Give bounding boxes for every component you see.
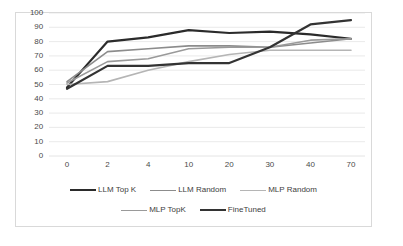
y-axis-tick-label: 100 <box>30 9 43 17</box>
legend-label: LLM Top K <box>98 186 136 194</box>
x-axis-tick-label: 2 <box>105 161 109 169</box>
x-axis-tick-label: 10 <box>184 161 193 169</box>
y-axis-tick-label: 50 <box>34 81 43 89</box>
legend-swatch-line-icon <box>200 209 226 211</box>
legend-swatch-line-icon <box>150 190 176 191</box>
legend-swatch-line-icon <box>240 190 266 191</box>
x-axis-tick-label: 70 <box>347 161 356 169</box>
legend-item-mlp-random[interactable]: MLP Random <box>240 186 317 194</box>
legend-item-llm-top-k[interactable]: LLM Top K <box>70 186 136 194</box>
legend-swatch-line-icon <box>70 189 96 191</box>
legend-label: FineTuned <box>228 206 266 214</box>
y-axis-tick-label: 90 <box>34 23 43 31</box>
x-axis-tick-label: 30 <box>265 161 274 169</box>
legend-label: LLM Random <box>178 186 226 194</box>
legend-label: MLP Random <box>268 186 317 194</box>
y-axis: 0102030405060708090100 <box>16 13 46 156</box>
chart-container: 0102030405060708090100 0241020304070 LLM… <box>15 12 372 227</box>
legend-item-finetuned[interactable]: FineTuned <box>200 206 266 214</box>
y-axis-tick-label: 70 <box>34 52 43 60</box>
y-axis-tick-label: 30 <box>34 109 43 117</box>
series-line-finetuned <box>67 20 351 89</box>
y-axis-tick-label: 20 <box>34 123 43 131</box>
x-axis-tick-label: 0 <box>65 161 69 169</box>
y-axis-tick-label: 80 <box>34 38 43 46</box>
legend-swatch-line-icon <box>121 210 147 211</box>
legend-item-mlp-topk[interactable]: MLP TopK <box>121 206 186 214</box>
chart-legend: LLM Top KLLM RandomMLP RandomMLP TopKFin… <box>16 178 371 226</box>
x-axis-tick-label: 20 <box>225 161 234 169</box>
legend-row: MLP TopKFineTuned <box>16 202 371 218</box>
y-axis-tick-label: 0 <box>39 152 43 160</box>
y-axis-tick-label: 40 <box>34 95 43 103</box>
x-axis: 0241020304070 <box>49 161 363 175</box>
y-axis-tick-label: 60 <box>34 66 43 74</box>
chart-plot-svg <box>49 13 365 158</box>
y-axis-tick-label: 10 <box>34 138 43 146</box>
series-line-mlp-random <box>67 50 351 84</box>
plot-area: 0102030405060708090100 0241020304070 <box>16 13 371 176</box>
x-axis-tick-label: 4 <box>146 161 150 169</box>
legend-row: LLM Top KLLM RandomMLP Random <box>16 182 371 198</box>
legend-label: MLP TopK <box>149 206 186 214</box>
legend-item-llm-random[interactable]: LLM Random <box>150 186 226 194</box>
series-line-llm-random <box>67 39 351 82</box>
x-axis-tick-label: 40 <box>306 161 315 169</box>
